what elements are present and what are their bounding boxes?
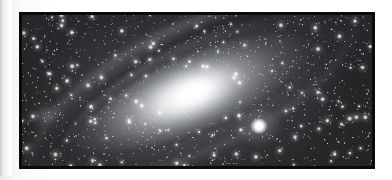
page-bottom-shade (0, 176, 392, 180)
companion-galaxy-m32 (251, 119, 268, 134)
andromeda-galaxy-photo (22, 15, 372, 166)
page-left-edge-strip (0, 0, 12, 180)
galaxy-m31 (22, 15, 372, 166)
page-canvas (0, 0, 392, 180)
photo-frame (19, 12, 375, 169)
